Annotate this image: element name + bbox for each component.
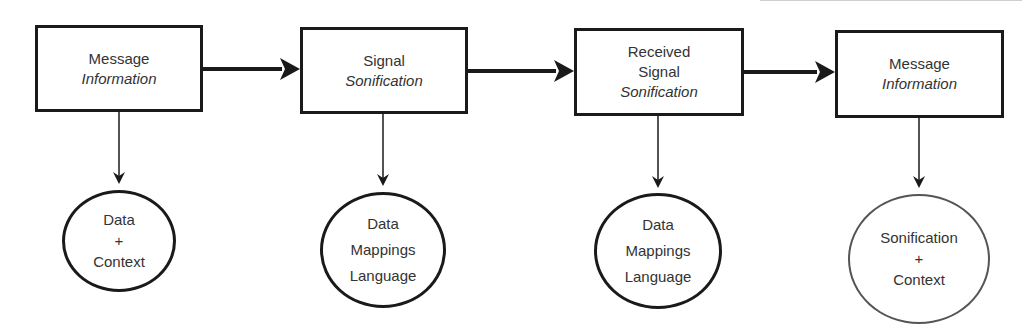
stage-sublabel: Sonification — [345, 71, 423, 91]
detail-line: Context — [93, 249, 145, 275]
stage-box-signal-sonification: Signal Sonification — [300, 27, 468, 114]
detail-line: Language — [625, 264, 692, 290]
detail-line: Context — [893, 267, 945, 293]
stage-label: Received — [628, 42, 691, 62]
detail-ellipse-data-mappings-language-1: Data Mappings Language — [320, 192, 446, 308]
stage-sublabel: Information — [81, 69, 156, 89]
stage-label: Message — [89, 49, 150, 69]
detail-ellipse-sonification-context: Sonification + Context — [848, 194, 990, 324]
detail-line: + — [115, 233, 124, 249]
stage-sublabel: Sonification — [620, 82, 698, 102]
detail-ellipse-data-mappings-language-2: Data Mappings Language — [594, 193, 722, 309]
stage-label-2: Signal — [638, 62, 680, 82]
stage-box-message-information-received: Message Information — [835, 30, 1004, 118]
detail-line: Mappings — [625, 238, 690, 264]
stage-sublabel: Information — [882, 74, 957, 94]
down-arrow-2 — [377, 113, 389, 186]
stage-box-message-information: Message Information — [35, 25, 203, 112]
stage-label: Signal — [363, 51, 405, 71]
detail-line: Sonification — [880, 225, 958, 251]
detail-line: Data — [367, 211, 399, 237]
detail-ellipse-data-context: Data + Context — [62, 190, 176, 292]
detail-line: Language — [350, 263, 417, 289]
detail-line: Data — [103, 207, 135, 233]
down-arrow-4 — [913, 117, 925, 188]
detail-line: + — [915, 251, 924, 267]
stage-label: Message — [889, 54, 950, 74]
detail-line: Mappings — [350, 237, 415, 263]
flow-arrow-1-to-2 — [203, 58, 300, 80]
stage-box-received-signal-sonification: Received Signal Sonification — [574, 28, 744, 116]
down-arrow-1 — [113, 111, 125, 184]
down-arrow-3 — [652, 115, 664, 188]
flow-arrow-2-to-3 — [468, 60, 574, 82]
detail-line: Data — [642, 212, 674, 238]
flow-arrow-3-to-4 — [744, 61, 835, 83]
